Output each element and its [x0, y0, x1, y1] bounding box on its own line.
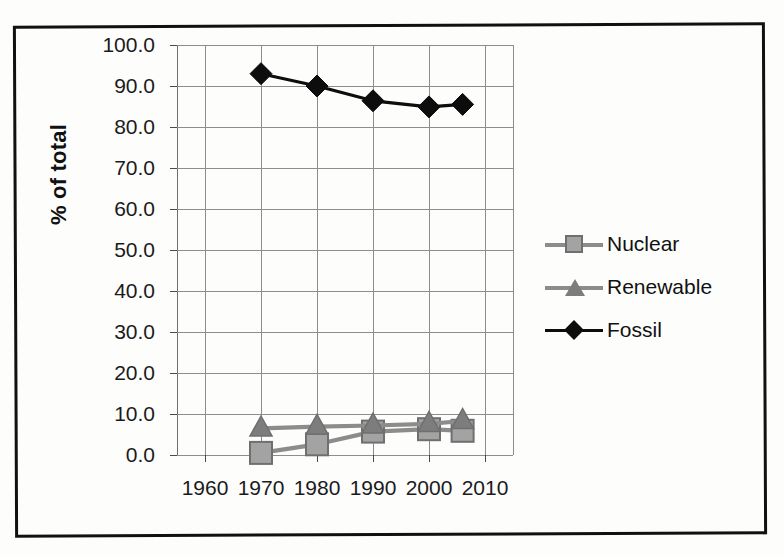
legend-item-nuclear: Nuclear [545, 222, 770, 265]
legend-key [545, 318, 603, 342]
legend-label: Renewable [607, 276, 712, 297]
chart-area: % of total 0.010.020.030.040.050.060.070… [0, 0, 784, 555]
legend-label: Fossil [607, 319, 662, 340]
legend-item-fossil: Fossil [545, 308, 770, 351]
legend-diamond-icon [567, 323, 581, 337]
legend-square-icon [565, 235, 583, 253]
legend-triangle-icon [565, 279, 585, 296]
legend-label: Nuclear [607, 233, 679, 254]
legend-item-renewable: Renewable [545, 265, 770, 308]
legend-key [545, 275, 603, 299]
figure-canvas: % of total 0.010.020.030.040.050.060.070… [0, 0, 784, 555]
chart-legend: NuclearRenewableFossil [545, 222, 770, 351]
x-axis-tick-label: 2010 [450, 477, 520, 498]
legend-key [545, 232, 603, 256]
